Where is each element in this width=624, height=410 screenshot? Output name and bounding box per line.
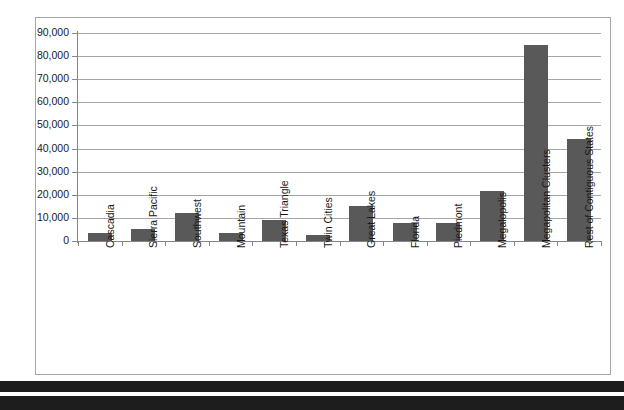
x-tick-label: Piedmont	[453, 204, 464, 248]
x-tick-label: Texas Triangle	[279, 180, 290, 248]
y-axis-tick	[72, 195, 77, 196]
y-tick-label: 80,000	[37, 50, 69, 61]
footer-band-upper	[0, 381, 624, 392]
x-tick-label: Megapolitan Clusters	[541, 149, 552, 248]
y-axis-tick	[72, 56, 77, 57]
y-tick-label: 10,000	[37, 212, 69, 223]
x-axis-labels: CascadiaSierra PacificSouthwestMountainT…	[78, 0, 601, 160]
y-tick-label: 0	[63, 235, 69, 246]
y-axis-tick	[72, 241, 77, 242]
chart-page: 90,00080,00070,00060,00050,00040,00030,0…	[0, 0, 624, 410]
x-axis-tick	[427, 241, 428, 246]
y-axis-tick	[72, 33, 77, 34]
y-axis-tick	[72, 218, 77, 219]
y-axis-tick	[72, 102, 77, 103]
x-tick-label: Sierra Pacific	[148, 186, 159, 248]
y-tick-label: 40,000	[37, 143, 69, 154]
x-axis-tick	[252, 241, 253, 246]
y-tick-label: 50,000	[37, 119, 69, 130]
x-tick-label: Florida	[410, 216, 421, 248]
x-tick-label: Megalopolis	[497, 192, 508, 248]
y-axis-tick	[72, 149, 77, 150]
x-tick-label: Southwest	[192, 199, 203, 248]
y-axis-tick	[72, 172, 77, 173]
x-axis-tick	[557, 241, 558, 246]
x-tick-label: Mountain	[236, 205, 247, 248]
x-axis-tick	[78, 241, 79, 246]
x-axis-tick	[470, 241, 471, 246]
y-tick-label: 70,000	[37, 73, 69, 84]
footer-band-lower	[0, 396, 624, 410]
y-axis-tick	[72, 79, 77, 80]
x-axis-tick	[296, 241, 297, 246]
y-tick-label: 60,000	[37, 96, 69, 107]
y-axis-labels: 90,00080,00070,00060,00050,00040,00030,0…	[0, 0, 69, 300]
x-tick-label: Cascadia	[105, 204, 116, 248]
x-tick-label: Rest of Contiguous States	[584, 126, 595, 248]
x-axis-tick	[514, 241, 515, 246]
y-tick-label: 30,000	[37, 166, 69, 177]
y-tick-label: 20,000	[37, 189, 69, 200]
x-axis-tick	[122, 241, 123, 246]
x-axis-tick	[209, 241, 210, 246]
x-axis-tick	[383, 241, 384, 246]
x-axis-tick	[340, 241, 341, 246]
y-tick-label: 90,000	[37, 27, 69, 38]
x-tick-label: Great Lakes	[366, 191, 377, 248]
y-axis-tick	[72, 125, 77, 126]
x-axis-tick	[165, 241, 166, 246]
x-tick-label: Twin Cities	[323, 197, 334, 248]
x-axis-tick	[601, 241, 602, 246]
